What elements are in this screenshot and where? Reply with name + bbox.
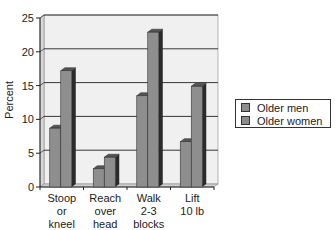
y-tick-label: 20 <box>22 46 34 58</box>
x-category-label: head <box>93 218 117 230</box>
bar <box>148 29 163 187</box>
y-tick-label: 15 <box>22 80 34 92</box>
legend-swatch-icon <box>241 116 250 125</box>
legend-label: Older men <box>257 102 308 114</box>
legend: Older men Older women <box>235 99 331 128</box>
x-category-label: Walk <box>137 192 162 204</box>
x-category-label: kneel <box>49 218 75 230</box>
x-axis: StooporkneelReachoverheadWalk2-3blocksLi… <box>40 187 214 230</box>
y-tick-label: 0 <box>28 181 34 193</box>
y-tick-label: 10 <box>22 113 34 125</box>
x-category-label: Lift <box>185 192 200 204</box>
y-tick-label: 5 <box>28 147 34 159</box>
legend-item-older-men: Older men <box>241 102 308 114</box>
x-category-label: 2-3 <box>141 205 157 217</box>
legend-item-older-women: Older women <box>241 115 322 127</box>
x-category-label: blocks <box>133 218 165 230</box>
bar <box>191 83 206 187</box>
x-category-label: 10 lb <box>180 205 204 217</box>
bar <box>61 68 76 187</box>
x-category-label: over <box>95 205 117 217</box>
legend-swatch-icon <box>241 103 250 112</box>
x-category-label: or <box>57 205 67 217</box>
bar <box>104 154 119 187</box>
x-category-label: Stoop <box>47 192 76 204</box>
y-tick-label: 25 <box>22 12 34 24</box>
legend-label: Older women <box>257 115 322 127</box>
x-category-label: Reach <box>89 192 121 204</box>
y-axis: 0510152025 <box>22 12 40 193</box>
y-axis-label: Percent <box>3 81 15 119</box>
